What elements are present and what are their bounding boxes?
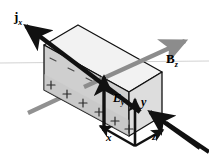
label-magnetic-field: Bz bbox=[166, 52, 178, 69]
label-hall-field-symbol: E bbox=[113, 91, 121, 105]
hall-effect-figure: jx Bz Ey y x z bbox=[0, 0, 209, 157]
label-axis-y: y bbox=[141, 96, 146, 108]
label-axis-z: z bbox=[152, 131, 156, 142]
label-current-density-subscript: x bbox=[18, 18, 22, 27]
hall-effect-diagram-canvas bbox=[0, 0, 209, 157]
label-hall-field: Ey bbox=[113, 92, 124, 107]
z-axis-arrow bbox=[135, 130, 163, 146]
label-current-density: jx bbox=[14, 10, 22, 27]
current-arrow-secondary-head bbox=[150, 112, 200, 148]
label-magnetic-field-subscript: z bbox=[175, 60, 178, 69]
label-magnetic-field-symbol: B bbox=[166, 51, 175, 66]
label-axis-x: x bbox=[106, 132, 112, 143]
label-hall-field-subscript: y bbox=[121, 98, 124, 107]
